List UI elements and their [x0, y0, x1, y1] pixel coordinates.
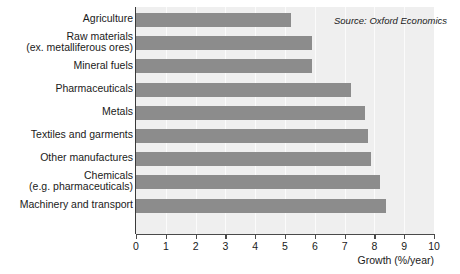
x-tick-label: 3 [222, 240, 228, 252]
bar[interactable] [136, 199, 386, 213]
x-tick-mark [166, 234, 167, 239]
x-tick-mark [434, 234, 435, 239]
x-tick-label: 5 [282, 240, 288, 252]
x-tick-mark [225, 234, 226, 239]
x-tick-label: 7 [342, 240, 348, 252]
category-label: Agriculture [83, 13, 133, 25]
bar[interactable] [136, 152, 371, 166]
x-tick-mark [196, 234, 197, 239]
x-tick-mark [255, 234, 256, 239]
category-label: Chemicals (e.g. pharmaceuticals) [29, 170, 133, 193]
category-label: Textiles and garments [31, 129, 133, 141]
bar[interactable] [136, 59, 312, 73]
x-tick-label: 10 [428, 240, 440, 252]
x-tick-mark [345, 234, 346, 239]
bar[interactable] [136, 175, 380, 189]
source-annotation: Source: Oxford Economics [334, 15, 447, 26]
bar[interactable] [136, 129, 368, 143]
x-tick-mark [404, 234, 405, 239]
x-tick-label: 4 [252, 240, 258, 252]
category-label: Mineral fuels [73, 60, 133, 72]
bar[interactable] [136, 106, 365, 120]
category-label: Machinery and transport [20, 199, 133, 211]
x-tick-label: 8 [371, 240, 377, 252]
bar[interactable] [136, 83, 351, 97]
plot-area [136, 7, 434, 234]
x-tick-mark [285, 234, 286, 239]
category-label: Metals [102, 106, 133, 118]
gridline [404, 7, 405, 234]
x-tick-label: 9 [401, 240, 407, 252]
x-tick-mark [374, 234, 375, 239]
x-tick-label: 0 [133, 240, 139, 252]
bar[interactable] [136, 13, 291, 27]
category-label: Other manufactures [40, 152, 133, 164]
category-label: Raw materials (ex. metalliferous ores) [26, 31, 133, 54]
x-tick-mark [136, 234, 137, 239]
x-tick-label: 6 [312, 240, 318, 252]
bar-chart: Source: Oxford Economics Growth (%/year)… [0, 0, 460, 274]
x-tick-label: 1 [163, 240, 169, 252]
x-axis-title: Growth (%/year) [358, 254, 434, 266]
x-tick-mark [315, 234, 316, 239]
bar[interactable] [136, 36, 312, 50]
x-tick-label: 2 [193, 240, 199, 252]
category-label: Pharmaceuticals [55, 83, 133, 95]
y-axis-line [135, 7, 136, 234]
